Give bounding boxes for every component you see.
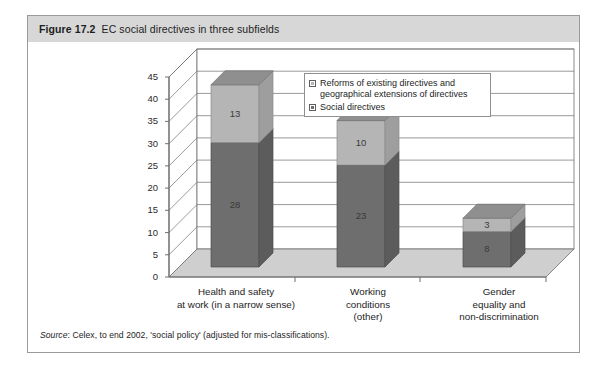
figure-source-note: Source: Celex, to end 2002, 'social poli… bbox=[40, 330, 330, 340]
figure-number: Figure 17.2 bbox=[39, 23, 96, 35]
legend-label-reforms-line1: Reforms of existing directives and bbox=[320, 78, 455, 88]
y-tick-45: 45 bbox=[136, 71, 158, 82]
bar-3-dark-value: 8 bbox=[467, 243, 507, 254]
legend-label-reforms: Reforms of existing directives and geogr… bbox=[320, 78, 468, 100]
legend-label-reforms-line2: geographical extensions of directives bbox=[320, 89, 468, 99]
chart-back-wall bbox=[169, 49, 197, 277]
y-tick-35: 35 bbox=[136, 115, 158, 126]
source-prefix: Source bbox=[40, 330, 68, 340]
y-tick-40: 40 bbox=[136, 93, 158, 104]
bar-1-dark-value: 28 bbox=[215, 199, 255, 210]
figure-container: Figure 17.2 EC social directives in thre… bbox=[27, 15, 580, 353]
bar-gender-equality[interactable] bbox=[463, 204, 525, 267]
figure-caption-text: EC social directives in three subfields bbox=[102, 23, 280, 35]
bar-1-dark-side bbox=[259, 129, 273, 267]
chart-x-axis bbox=[169, 277, 546, 282]
chart-legend: Reforms of existing directives and geogr… bbox=[304, 73, 491, 117]
bar-2-dark-value: 23 bbox=[341, 210, 381, 221]
y-tick-5: 5 bbox=[136, 249, 158, 260]
source-text: : Celex, to end 2002, 'social policy' (a… bbox=[68, 330, 330, 340]
y-tick-15: 15 bbox=[136, 204, 158, 215]
y-tick-0: 0 bbox=[136, 271, 158, 282]
legend-swatch-light-icon bbox=[309, 80, 316, 87]
bar-1-light-value: 13 bbox=[215, 108, 255, 119]
bar-health-safety[interactable] bbox=[211, 71, 273, 267]
bar-2-light-value: 10 bbox=[341, 137, 381, 148]
category-label-health-safety: Health and safety at work (in a narrow s… bbox=[146, 286, 326, 311]
y-tick-10: 10 bbox=[136, 227, 158, 238]
chart-y-axis bbox=[165, 77, 169, 277]
chart-plot-area: 0 5 10 15 20 25 30 35 40 45 13 28 10 23 … bbox=[28, 42, 581, 325]
bar-2-dark-side bbox=[385, 151, 399, 267]
legend-label-social-directives: Social directives bbox=[320, 102, 385, 113]
legend-swatch-dark-icon bbox=[309, 104, 316, 111]
figure-caption-band: Figure 17.2 EC social directives in thre… bbox=[28, 16, 579, 42]
category-label-working-conditions: Working conditions (other) bbox=[313, 286, 423, 324]
legend-item-reforms[interactable]: Reforms of existing directives and geogr… bbox=[309, 78, 486, 100]
bar-working-conditions[interactable] bbox=[337, 107, 399, 267]
bar-3-light-value: 3 bbox=[467, 219, 507, 230]
y-tick-25: 25 bbox=[136, 160, 158, 171]
legend-item-social-directives[interactable]: Social directives bbox=[309, 102, 486, 113]
y-tick-20: 20 bbox=[136, 182, 158, 193]
category-label-gender-equality: Gender equality and non-discrimination bbox=[424, 286, 574, 324]
y-tick-30: 30 bbox=[136, 138, 158, 149]
